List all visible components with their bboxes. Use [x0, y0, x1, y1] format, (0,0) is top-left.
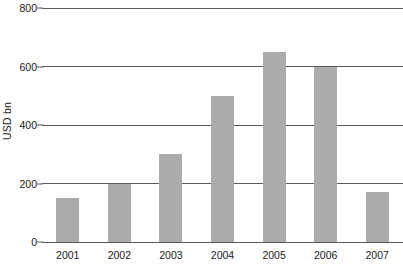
bar — [263, 52, 286, 242]
y-axis-tick-label: 200 — [14, 178, 37, 189]
bar — [314, 67, 337, 243]
x-axis-tick-label: 2001 — [56, 248, 79, 262]
x-axis-tick-labels: 2001200220032004200520062007 — [42, 248, 403, 266]
x-axis-tick-label: 2002 — [108, 248, 131, 262]
y-axis-tick-label: 0 — [14, 237, 37, 248]
gridline — [42, 66, 403, 67]
x-axis-tick-label: 2006 — [314, 248, 337, 262]
x-axis-tick-label: 2005 — [262, 248, 285, 262]
bar — [56, 198, 79, 242]
x-axis-tick-label: 2004 — [211, 248, 234, 262]
y-axis-title: USD bn — [0, 0, 14, 242]
x-axis-tick-label: 2007 — [366, 248, 389, 262]
bar — [108, 184, 131, 243]
bar — [366, 192, 389, 242]
y-axis-tick-label: 400 — [14, 120, 37, 131]
y-axis-tick-label: 600 — [14, 61, 37, 72]
bar — [159, 154, 182, 242]
bar-chart: USD bn 0200400600800 2001200220032004200… — [0, 0, 403, 270]
y-axis-tick-label: 800 — [14, 3, 37, 14]
gridline — [42, 8, 403, 9]
plot-area — [42, 0, 403, 270]
y-axis-title-text: USD bn — [1, 102, 13, 140]
x-axis-tick-label: 2003 — [159, 248, 182, 262]
bar — [211, 96, 234, 242]
y-axis-tick-labels: 0200400600800 — [14, 0, 37, 270]
